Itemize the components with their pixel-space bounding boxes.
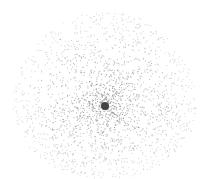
center-dot: [101, 102, 109, 110]
dot-cloud: [0, 0, 203, 179]
point-cloud-figure: [0, 0, 203, 179]
